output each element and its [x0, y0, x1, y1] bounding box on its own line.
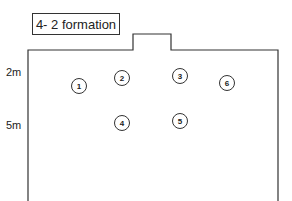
- player-4: 4: [114, 115, 130, 131]
- player-3: 3: [172, 68, 188, 84]
- court-outline: [0, 0, 292, 201]
- player-2: 2: [114, 70, 130, 86]
- distance-label-5m: 5m: [6, 119, 21, 131]
- player-1: 1: [71, 78, 87, 94]
- player-5: 5: [172, 113, 188, 129]
- distance-label-2m: 2m: [6, 66, 21, 78]
- player-6: 6: [219, 75, 235, 91]
